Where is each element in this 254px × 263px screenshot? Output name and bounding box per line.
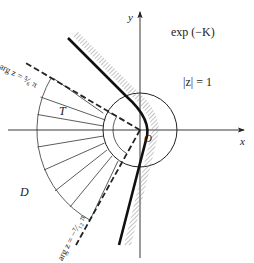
x-axis-label: x [240, 136, 245, 147]
origin-label: O [144, 133, 152, 144]
sector-inner-arc [113, 117, 127, 154]
curve-label-exp-minus-k: exp (−K) [171, 26, 215, 38]
fan-line [70, 156, 112, 207]
y-axis-label: y [128, 12, 133, 23]
sector-outer-arc [37, 79, 90, 221]
fan-line [55, 150, 107, 191]
unit-circle-label: |z| = 1 [183, 76, 212, 88]
region-d-label: D [20, 186, 29, 198]
ray-upper-dashed [24, 62, 140, 130]
fan-line [44, 143, 105, 170]
complex-plane-diagram: y x O exp (−K) |z| = 1 T D arg z = ⁵⁄₆ π… [0, 0, 254, 263]
diagram-canvas [0, 0, 254, 263]
region-t-label: T [59, 105, 66, 117]
fan-line [38, 136, 104, 147]
sector-fan [37, 78, 127, 220]
